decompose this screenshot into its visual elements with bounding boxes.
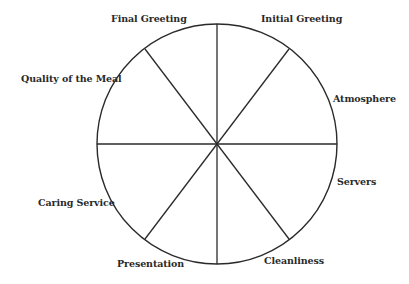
label-cleanliness: Cleanliness: [264, 256, 324, 266]
label-atmosphere: Atmosphere: [333, 94, 396, 104]
label-quality-of-the-meal: Quality of the Meal: [21, 74, 122, 84]
label-final-greeting: Final Greeting: [111, 14, 187, 24]
label-caring-service: Caring Service: [38, 198, 115, 208]
spoke-diagonal-upleft: [145, 49, 217, 144]
spoke-diagonal-downright: [217, 144, 289, 239]
label-servers: Servers: [337, 177, 376, 187]
evaluation-wheel: [0, 0, 409, 284]
label-presentation: Presentation: [117, 259, 184, 269]
spoke-diagonal-downleft: [145, 144, 217, 239]
spoke-diagonal-upright: [217, 49, 289, 144]
label-initial-greeting: Initial Greeting: [261, 14, 342, 24]
